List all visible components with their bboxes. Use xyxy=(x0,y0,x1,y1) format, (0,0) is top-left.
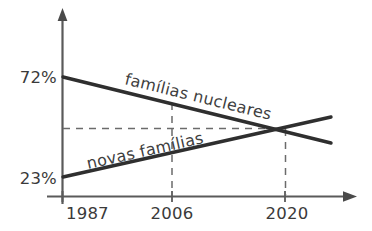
x-axis-label-2020: 2020 xyxy=(266,204,309,223)
line-chart: 72% 23% 1987 2006 2020 famílias nucleare… xyxy=(0,0,372,231)
x-axis-label-1987: 1987 xyxy=(66,204,109,223)
x-axis-label-2006: 2006 xyxy=(151,204,194,223)
y-axis-label-bottom: 23% xyxy=(20,169,57,188)
chart-container: 72% 23% 1987 2006 2020 famílias nucleare… xyxy=(0,0,372,231)
series-label-novas-familias: novas famílias xyxy=(85,128,206,173)
x-axis-arrow-icon xyxy=(343,191,357,201)
y-axis-arrow-icon xyxy=(58,8,68,21)
y-axis-label-top: 72% xyxy=(20,68,57,87)
